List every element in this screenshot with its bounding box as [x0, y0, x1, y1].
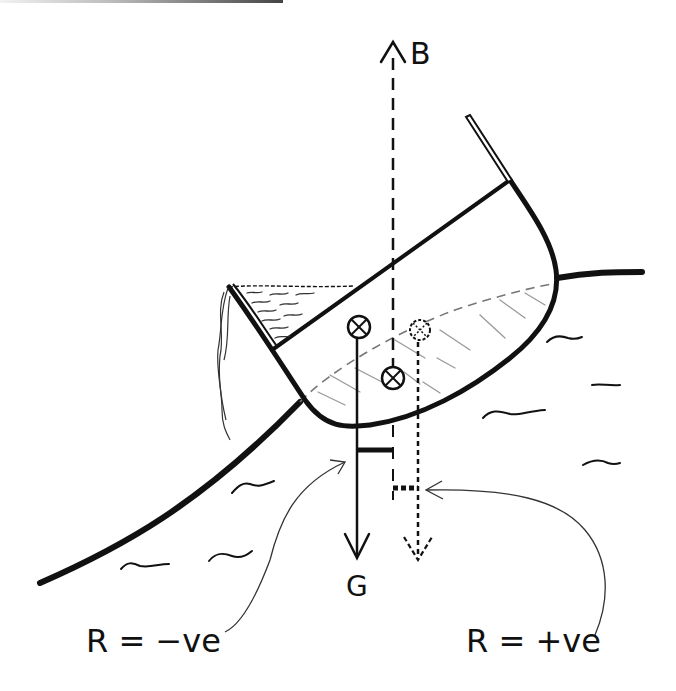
alt-buoyancy-arrow: [404, 320, 432, 560]
boat-stability-diagram: B G R = −ve R = +ve: [0, 0, 676, 691]
gravity-label: G: [346, 570, 368, 603]
bow-post: [466, 115, 512, 182]
sea-ripples: [121, 336, 620, 569]
buoyancy-label: B: [410, 36, 431, 71]
pointer-curve-negative: [225, 460, 345, 632]
gravity-arrow: G: [345, 316, 370, 603]
centre-of-buoyancy-marker: [382, 367, 404, 389]
pointer-curve-positive: [426, 481, 605, 635]
righting-positive-label: R = +ve: [466, 622, 601, 660]
boat-deck-line: [272, 180, 510, 350]
righting-negative-label: R = −ve: [86, 622, 221, 660]
